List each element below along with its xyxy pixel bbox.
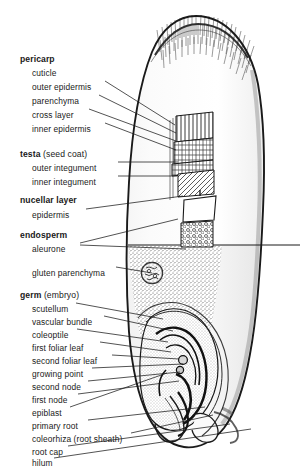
label-text: parenchyma xyxy=(32,96,79,106)
leader-cross-layer xyxy=(89,109,176,141)
label-text: first foliar leaf xyxy=(32,343,84,353)
label-text: epiblast xyxy=(32,408,62,418)
label-text: gluten parenchyma xyxy=(32,268,105,278)
label-gluten-parenchyma: gluten parenchyma xyxy=(32,269,105,278)
label-text: cuticle xyxy=(32,68,56,78)
label-text: root cap xyxy=(32,447,63,457)
label-cross-layer: cross layer xyxy=(32,111,74,120)
label-aleurone: aleurone xyxy=(32,245,65,254)
label-first-foliar-leaf: first foliar leaf xyxy=(32,344,84,353)
label-qualifier: (seed coat) xyxy=(41,149,88,159)
hilum-shape xyxy=(214,412,238,443)
label-first-node: first node xyxy=(32,396,67,405)
leader-coleorhiza xyxy=(131,415,213,433)
outer-integument-block xyxy=(172,138,213,176)
label-outer-epidermis: outer epidermis xyxy=(32,83,91,92)
growing-point-nodule xyxy=(179,356,188,365)
label-outer-integument: outer integument xyxy=(32,164,96,173)
label-qualifier: (embryo) xyxy=(41,290,79,300)
leader-primary-root xyxy=(88,407,205,420)
label-text: coleoptile xyxy=(32,330,68,340)
leader-growing-point xyxy=(92,364,183,368)
label-growing-point: growing point xyxy=(32,370,83,379)
label-parenchyma: parenchyma xyxy=(32,97,79,106)
label-coleorhiza: coleorhiza (root sheath) xyxy=(32,435,122,444)
label-inner-integument: inner integument xyxy=(32,178,96,187)
leader-gluten-parenchyma xyxy=(116,267,152,273)
label-vascular-bundle: vascular bundle xyxy=(32,318,92,327)
label-text: inner integument xyxy=(32,177,96,187)
label-text: vascular bundle xyxy=(32,317,92,327)
label-text: growing point xyxy=(32,369,83,379)
label-second-node: second node xyxy=(32,383,81,392)
label-text: germ xyxy=(20,290,41,300)
label-second-foliar-leaf: second foliar leaf xyxy=(32,357,97,366)
leader-coleoptile xyxy=(77,329,168,342)
label-text: inner epidermis xyxy=(32,124,91,134)
label-text: coleorhiza xyxy=(32,434,71,444)
label-text: aleurone xyxy=(32,244,65,254)
label-text: pericarp xyxy=(20,54,55,64)
label-testa: testa (seed coat) xyxy=(20,150,87,159)
label-text: scutellum xyxy=(32,304,68,314)
root-cap-shape xyxy=(192,413,218,442)
leader-second-foliar-leaf xyxy=(112,355,179,359)
tissue-block-stack xyxy=(170,112,216,247)
inner-integument-block xyxy=(178,170,214,197)
label-primary-root: primary root xyxy=(32,422,78,431)
aleurone-block xyxy=(181,221,213,247)
leader-second-node xyxy=(88,372,180,381)
cross-layer-block xyxy=(176,112,213,142)
embryo-detail xyxy=(140,309,244,443)
leader-first-node xyxy=(78,381,179,394)
label-pericarp: pericarp xyxy=(20,55,55,64)
label-qualifier: (root sheath) xyxy=(71,434,122,444)
label-endosperm: endosperm xyxy=(20,231,67,240)
label-germ: germ (embryo) xyxy=(20,291,79,300)
leader-parenchyma xyxy=(99,95,176,133)
label-cuticle: cuticle xyxy=(32,69,56,78)
label-inner-epidermis: inner epidermis xyxy=(32,125,91,134)
label-coleoptile: coleoptile xyxy=(32,331,68,340)
label-text: testa xyxy=(20,149,41,159)
leader-epiblast xyxy=(70,373,167,407)
label-epidermis: epidermis xyxy=(32,211,69,220)
label-root-cap: root cap xyxy=(32,448,63,457)
label-epiblast: epiblast xyxy=(32,409,62,418)
label-text: outer integument xyxy=(32,163,96,173)
label-scutellum: scutellum xyxy=(32,305,68,314)
label-text: second node xyxy=(32,382,81,392)
leader-inner-epidermis xyxy=(105,123,176,150)
label-text: outer epidermis xyxy=(32,82,91,92)
gluten-parenchyma-detail xyxy=(142,263,163,284)
label-text: cross layer xyxy=(32,110,74,120)
leader-aleurone-upper xyxy=(80,219,178,243)
leader-aleurone-lower xyxy=(80,245,186,249)
label-text: second foliar leaf xyxy=(32,356,97,366)
label-text: hilum xyxy=(32,458,53,468)
label-text: epidermis xyxy=(32,210,69,220)
leader-epidermis xyxy=(86,196,183,209)
label-nucellar-layer: nucellar layer xyxy=(20,196,77,205)
label-text: nucellar layer xyxy=(20,195,77,205)
leader-first-foliar-leaf xyxy=(100,342,171,352)
label-text: first node xyxy=(32,395,67,405)
kernel-outline xyxy=(127,16,264,447)
label-hilum: hilum xyxy=(32,459,53,468)
leader-vascular-bundle xyxy=(104,316,173,331)
leader-outer-epidermis xyxy=(105,81,175,125)
label-text: endosperm xyxy=(20,230,67,240)
nucellar-epidermis-block xyxy=(183,190,216,222)
label-text: primary root xyxy=(32,421,78,431)
